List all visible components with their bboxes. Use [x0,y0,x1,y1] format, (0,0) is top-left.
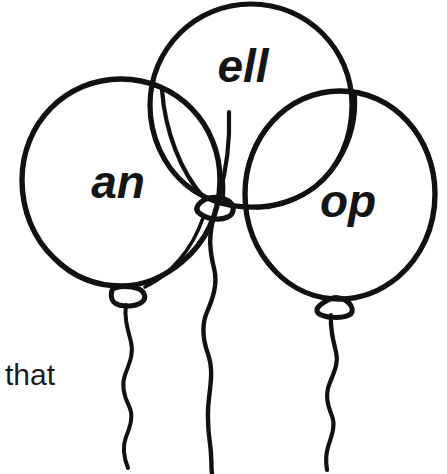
balloon-middle-neck-tick [223,178,224,198]
caption-word: that [5,358,56,391]
balloons-illustration: ell an op that [0,0,447,474]
worksheet-canvas: ell an op that [0,0,447,474]
balloon-label-op: op [320,175,376,227]
balloon-label-ell: ell [217,40,269,92]
balloon-right-neck-tick [236,206,258,208]
balloon-label-an: an [91,156,145,208]
